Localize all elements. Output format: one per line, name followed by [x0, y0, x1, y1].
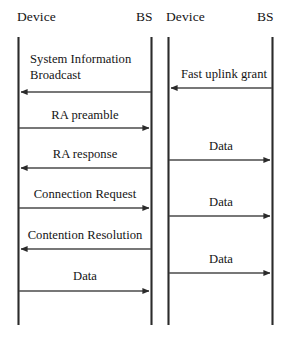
message-label-data-right-2: Data	[169, 195, 273, 210]
message-label-connection-request: Connection Request	[0, 187, 170, 202]
message-label-data-left: Data	[0, 269, 170, 284]
message-label-fast-uplink-grant: Fast uplink grant	[172, 67, 276, 82]
message-label-system-information-broadcast-line2: Broadcast	[30, 68, 81, 83]
message-label-system-information-broadcast-line1: System Information	[30, 52, 131, 67]
actor-label-left-bs: BS	[136, 9, 153, 24]
sequence-diagram: Device BS Device BS System Information B…	[0, 0, 292, 345]
actor-label-right-device: Device	[166, 9, 205, 24]
message-label-ra-response: RA response	[0, 147, 170, 162]
actor-label-left-device: Device	[17, 9, 56, 24]
message-label-data-right-3: Data	[169, 252, 273, 267]
message-label-data-right-1: Data	[169, 139, 273, 154]
actor-label-right-bs: BS	[257, 9, 274, 24]
message-label-ra-preamble: RA preamble	[0, 108, 170, 123]
message-label-contention-resolution: Contention Resolution	[0, 228, 170, 243]
right-panel-arrows	[169, 88, 272, 273]
